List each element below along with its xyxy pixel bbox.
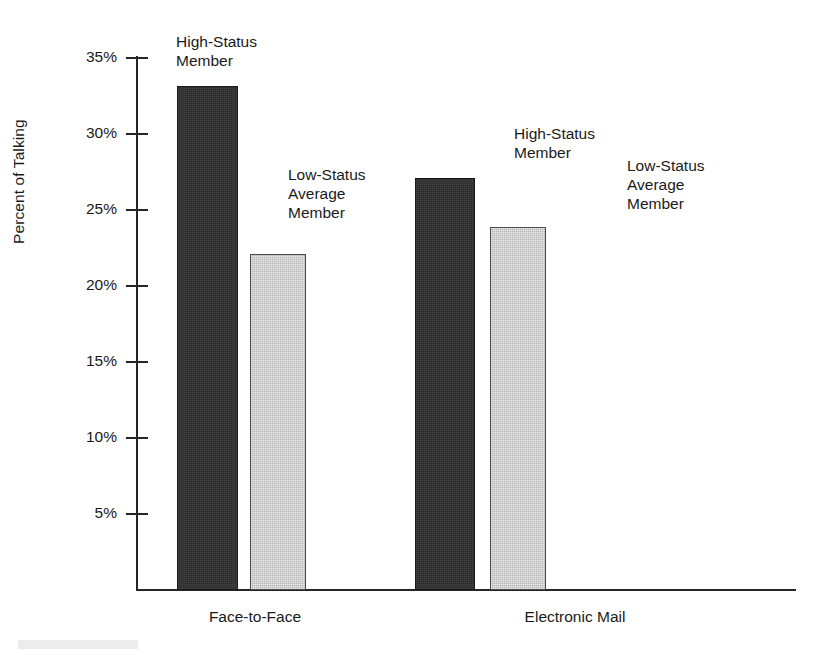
- y-axis-title: Percent of Talking: [10, 44, 32, 244]
- y-axis-tick-label-20-wrap: 20%: [55, 277, 117, 293]
- y-axis-tick-label-35-wrap: 35%: [55, 49, 117, 65]
- y-axis-tick-label-5-wrap: 5%: [55, 505, 117, 521]
- y-axis-tick-label-35: 35%: [61, 49, 117, 65]
- y-axis-tick-label-30: 30%: [61, 125, 117, 141]
- y-axis-tick-label-10: 10%: [61, 429, 117, 445]
- y-axis-tick-label-15-wrap: 15%: [55, 353, 117, 369]
- bar-label-electronic-mail-high-status: High-Status Member: [514, 124, 595, 162]
- bar-chart-figure: Percent of Talking 35% 30% 25% 20% 15% 1…: [0, 0, 827, 655]
- y-axis-tick-label-20: 20%: [61, 277, 117, 293]
- bar-face-to-face-low-status: [250, 254, 306, 590]
- y-axis-tick-label-25: 25%: [61, 201, 117, 217]
- x-axis-category-electronic-mail: Electronic Mail: [485, 608, 665, 626]
- bar-electronic-mail-low-status: [490, 227, 546, 590]
- caption-fragment: [18, 640, 138, 649]
- y-axis-tick-label-15: 15%: [61, 353, 117, 369]
- bar-face-to-face-high-status: [177, 86, 238, 590]
- x-axis-category-face-to-face: Face-to-Face: [175, 608, 335, 626]
- y-axis-tick-label-5: 5%: [61, 505, 117, 521]
- bar-label-electronic-mail-low-status: Low-Status Average Member: [627, 156, 705, 213]
- y-axis-tick-label-10-wrap: 10%: [55, 429, 117, 445]
- bar-label-face-to-face-low-status: Low-Status Average Member: [288, 165, 366, 222]
- bar-label-face-to-face-high-status: High-Status Member: [176, 32, 257, 70]
- bar-electronic-mail-high-status: [415, 178, 475, 590]
- plot-area: [137, 56, 796, 590]
- y-axis-tick-label-25-wrap: 25%: [55, 201, 117, 217]
- y-axis-tick-label-30-wrap: 30%: [55, 125, 117, 141]
